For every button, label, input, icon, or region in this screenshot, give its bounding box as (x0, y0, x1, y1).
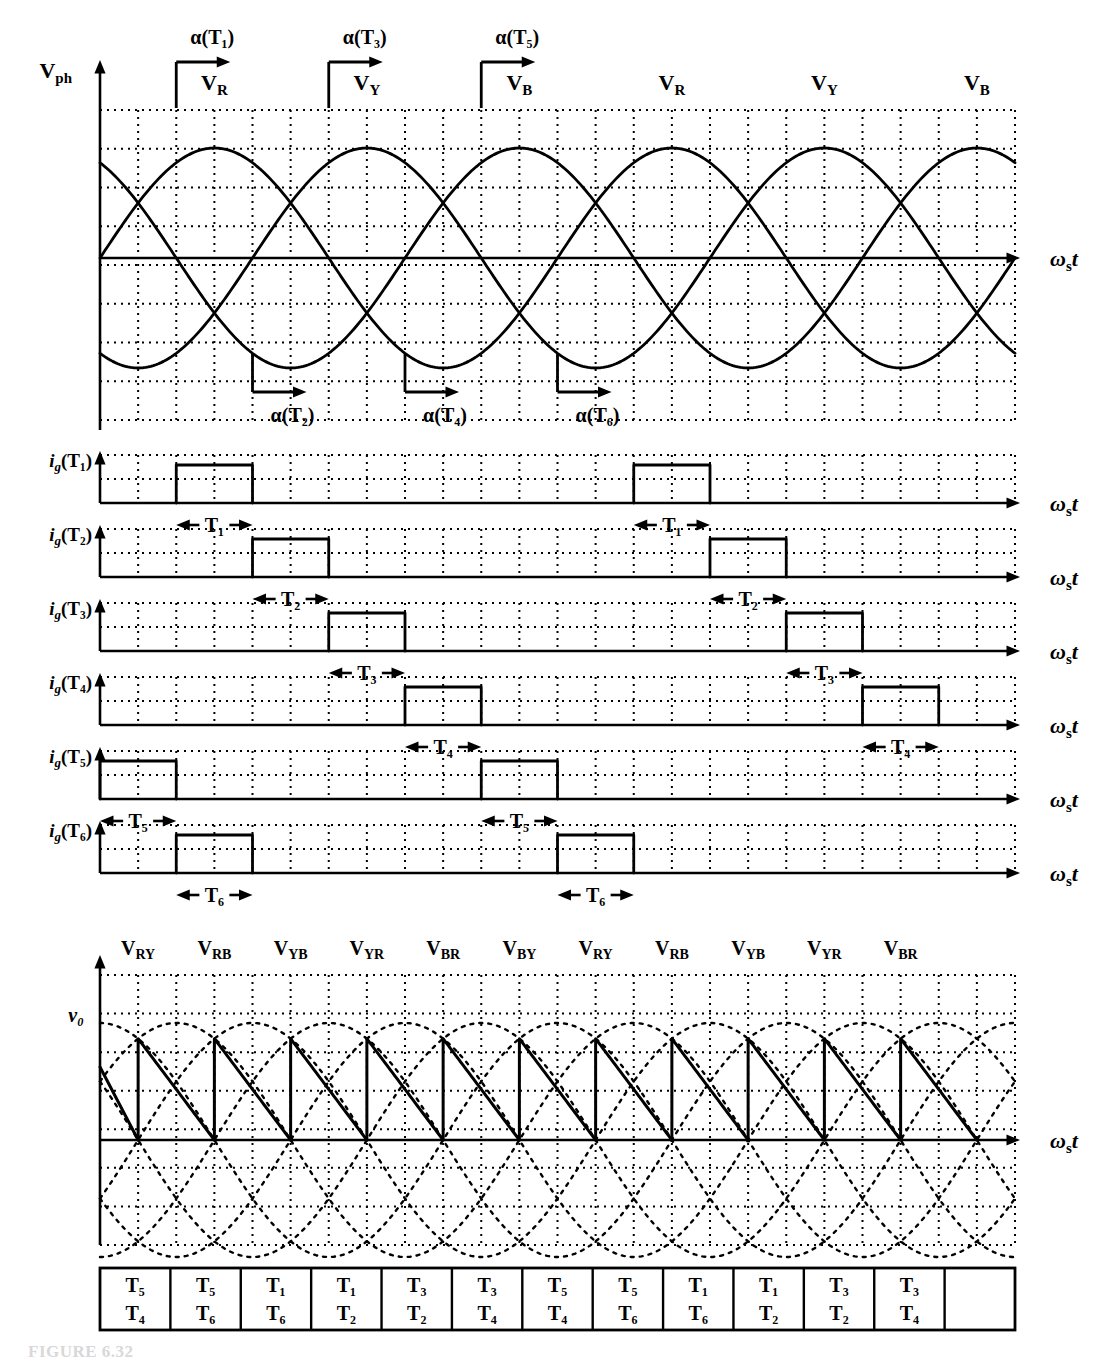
alpha-lower-label-1: α(T₂) (271, 404, 315, 427)
line-voltage-label-5: VBY (502, 937, 536, 962)
output-pulse-leading (100, 1067, 138, 1140)
conduction-cell-bottom-11: T₄ (900, 1302, 919, 1324)
conduction-cell-top-11: T₃ (900, 1274, 919, 1296)
duration-right-head-ig-T6-1 (239, 889, 253, 900)
line-voltage-label-0: VRY (121, 937, 155, 962)
conduction-cell-top-4: T₃ (407, 1274, 426, 1296)
gate-xaxis-6-arrowhead (1007, 867, 1021, 878)
line-voltage-label-2: VYB (274, 937, 308, 962)
gate-yaxis-4-arrowhead (94, 673, 105, 687)
peak-label-VR: VR (201, 70, 228, 98)
duration-left-head-ig-T6-2 (558, 889, 572, 900)
conduction-cell-top-7: T₅ (618, 1274, 637, 1296)
output-xaxis-label: ωst (1050, 1128, 1079, 1156)
duration-left-head-ig-T5-1 (100, 815, 114, 826)
gate-xaxis-6-label: ωst (1050, 861, 1079, 889)
gate-yaxis-5-arrowhead (94, 747, 105, 761)
gate-row-label-ig-T4: ig(T₄) (49, 672, 92, 696)
conduction-cell-bottom-4: T₂ (407, 1302, 426, 1324)
alpha-upper-arrowhead-3 (522, 56, 536, 67)
alpha-upper-label-2: α(T₃) (343, 26, 387, 49)
conduction-cell-bottom-3: T₂ (337, 1302, 356, 1324)
gate-xaxis-4-label: ωst (1050, 713, 1079, 741)
gate-yaxis-3-arrowhead (94, 599, 105, 613)
gate-xaxis-2-arrowhead (1007, 571, 1021, 582)
duration-label-ig-T1-1: T₁ (205, 514, 224, 536)
duration-label-ig-T2-1: T₂ (281, 588, 300, 610)
gate-xaxis-2-label: ωst (1050, 565, 1079, 593)
duration-label-ig-T4-2: T₄ (891, 736, 910, 758)
conduction-cell-bottom-8: T₆ (689, 1302, 708, 1324)
phase-yaxis-arrowhead (94, 60, 105, 74)
phase-xaxis-label: ωst (1050, 246, 1079, 274)
alpha-upper-arrowhead-2 (369, 56, 383, 67)
conduction-cell-bottom-7: T₆ (618, 1302, 637, 1324)
alpha-lower-arrowhead-3 (598, 386, 612, 397)
line-voltage-label-6: VRY (579, 937, 613, 962)
gate-xaxis-3-label: ωst (1050, 639, 1079, 667)
gate-xaxis-5-arrowhead (1007, 793, 1021, 804)
duration-left-head-ig-T3-1 (329, 667, 343, 678)
figure-caption: FIGURE 6.32 (28, 1342, 134, 1362)
gate-yaxis-1-arrowhead (94, 451, 105, 465)
duration-label-ig-T5-1: T₅ (128, 810, 147, 832)
duration-right-head-ig-T6-2 (620, 889, 634, 900)
conduction-cell-top-2: T₁ (266, 1274, 285, 1296)
conduction-cell-bottom-2: T₆ (266, 1302, 285, 1324)
conduction-cell-top-1: T₅ (196, 1274, 215, 1296)
duration-label-ig-T6-2: T₆ (586, 884, 605, 906)
line-voltage-label-9: VYR (807, 937, 843, 962)
output-xaxis-arrowhead (1007, 1134, 1021, 1145)
conduction-cell-top-3: T₁ (337, 1274, 356, 1296)
gate-xaxis-1-arrowhead (1007, 497, 1021, 508)
conduction-cell-bottom-6: T₄ (548, 1302, 567, 1324)
gate-yaxis-6-arrowhead (94, 821, 105, 835)
alpha-upper-arrowhead-1 (217, 56, 231, 67)
gate-xaxis-3-arrowhead (1007, 645, 1021, 656)
conduction-cell-bottom-0: T₄ (126, 1302, 145, 1324)
conduction-cell-top-0: T₅ (126, 1274, 145, 1296)
gate-yaxis-2-arrowhead (94, 525, 105, 539)
alpha-lower-label-3: α(T₆) (576, 404, 620, 427)
peak-label-VB: VB (964, 70, 990, 98)
peak-label-VY: VY (811, 70, 838, 98)
peak-label-VY: VY (354, 70, 381, 98)
conduction-cell-bottom-9: T₂ (759, 1302, 778, 1324)
line-voltage-label-10: VBR (884, 937, 919, 962)
duration-label-ig-T3-1: T₃ (357, 662, 376, 684)
figure-canvas: ωstVphVRVYVBVRVYVBα(T₁)α(T₃)α(T₅)α(T₂)α(… (0, 0, 1111, 1367)
duration-label-ig-T1-2: T₁ (662, 514, 681, 536)
peak-label-VB: VB (506, 70, 532, 98)
gate-xaxis-4-arrowhead (1007, 719, 1021, 730)
line-voltage-label-4: VBR (426, 937, 461, 962)
alpha-upper-label-1: α(T₁) (190, 26, 234, 49)
conduction-cell-top-6: T₅ (548, 1274, 567, 1296)
duration-label-ig-T4-1: T₄ (433, 736, 452, 758)
gate-row-label-ig-T6: ig(T₆) (49, 820, 92, 844)
peak-label-VR: VR (659, 70, 686, 98)
alpha-upper-label-3: α(T₅) (495, 26, 539, 49)
output-yaxis-arrowhead (94, 955, 105, 969)
gate-xaxis-5-label: ωst (1050, 787, 1079, 815)
line-voltage-label-7: VRB (655, 937, 689, 962)
line-voltage-label-8: VYB (731, 937, 765, 962)
duration-left-head-ig-T6-1 (176, 889, 190, 900)
gate-row-label-ig-T5: ig(T₅) (49, 746, 92, 770)
duration-right-head-ig-T3-2 (849, 667, 863, 678)
alpha-lower-arrowhead-2 (446, 386, 460, 397)
gate-row-label-ig-T2: ig(T₂) (49, 524, 92, 548)
line-voltage-label-1: VRB (197, 937, 231, 962)
gate-row-label-ig-T3: ig(T₃) (49, 598, 92, 622)
conduction-cell-top-10: T₃ (829, 1274, 848, 1296)
alpha-lower-label-2: α(T₄) (423, 404, 467, 427)
line-voltage-label-3: VYR (350, 937, 386, 962)
alpha-lower-arrowhead-1 (293, 386, 307, 397)
conduction-cell-bottom-5: T₄ (477, 1302, 496, 1324)
duration-label-ig-T2-2: T₂ (738, 588, 757, 610)
duration-label-ig-T5-2: T₅ (510, 810, 529, 832)
conduction-cell-bottom-10: T₂ (829, 1302, 848, 1324)
output-axis-label: v₀ (68, 1004, 84, 1026)
duration-label-ig-T3-2: T₃ (815, 662, 834, 684)
conduction-cell-top-8: T₁ (689, 1274, 708, 1296)
waveform-svg: ωstVphVRVYVBVRVYVBα(T₁)α(T₃)α(T₅)α(T₂)α(… (0, 0, 1111, 1367)
